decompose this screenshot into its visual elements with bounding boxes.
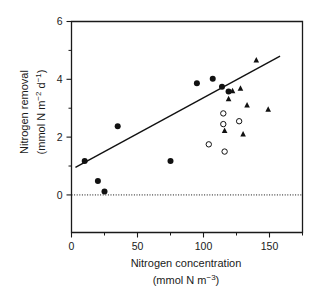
x-tick-label: 100 — [195, 240, 213, 252]
data-point-filled-triangle — [226, 96, 232, 102]
regression-trend-line — [75, 56, 280, 167]
x-tick-label: 50 — [132, 240, 144, 252]
y-tick-label: 4 — [57, 73, 63, 85]
data-point-open-circle — [222, 149, 227, 154]
axis-frame — [72, 22, 303, 233]
series-filled-triangles — [222, 57, 271, 137]
data-point-open-circle — [221, 111, 226, 116]
data-point-filled-circle — [219, 84, 225, 90]
plot-frame — [72, 22, 303, 233]
y-axis-label: Nitrogen removal — [18, 70, 30, 154]
series-filled-circles — [82, 76, 232, 195]
figure-container: 050100150 0246 Nitrogen concentration (m… — [0, 0, 316, 298]
data-point-filled-triangle — [240, 131, 246, 137]
data-markers — [82, 57, 271, 194]
data-point-filled-circle — [95, 178, 101, 184]
y-axis-ticks — [67, 22, 72, 195]
y-axis-tick-labels: 0246 — [57, 15, 63, 200]
x-axis-units-label: (mmol N m−3) — [153, 273, 220, 286]
x-axis-label: Nitrogen concentration — [131, 257, 242, 269]
x-tick-label: 0 — [69, 240, 75, 252]
data-point-filled-circle — [168, 158, 174, 164]
data-point-filled-triangle — [265, 106, 271, 112]
y-tick-label: 6 — [57, 15, 63, 27]
data-point-filled-triangle — [238, 85, 244, 91]
x-tick-label: 150 — [261, 240, 279, 252]
y-axis-label-group: Nitrogen removal (mmol N m−2 d−1) — [18, 70, 47, 155]
x-axis-tick-labels: 050100150 — [69, 240, 279, 252]
data-point-filled-circle — [194, 80, 200, 86]
data-point-filled-triangle — [254, 57, 260, 63]
data-point-filled-triangle — [222, 128, 228, 134]
trend-line — [75, 56, 280, 167]
data-point-filled-circle — [210, 76, 216, 82]
data-point-filled-triangle — [244, 102, 250, 108]
y-tick-label: 2 — [57, 131, 63, 143]
y-tick-label: 0 — [57, 189, 63, 201]
data-point-open-circle — [221, 121, 226, 126]
data-point-open-circle — [206, 142, 211, 147]
x-axis-label-group: Nitrogen concentration (mmol N m−3) — [131, 257, 242, 286]
data-point-filled-circle — [115, 123, 121, 129]
scatter-plot: 050100150 0246 Nitrogen concentration (m… — [0, 0, 316, 298]
y-axis-units-label: (mmol N m−2 d−1) — [34, 70, 47, 155]
data-point-filled-circle — [102, 188, 108, 194]
x-axis-ticks — [72, 233, 303, 238]
data-point-filled-circle — [82, 158, 88, 164]
data-point-open-circle — [236, 119, 241, 124]
